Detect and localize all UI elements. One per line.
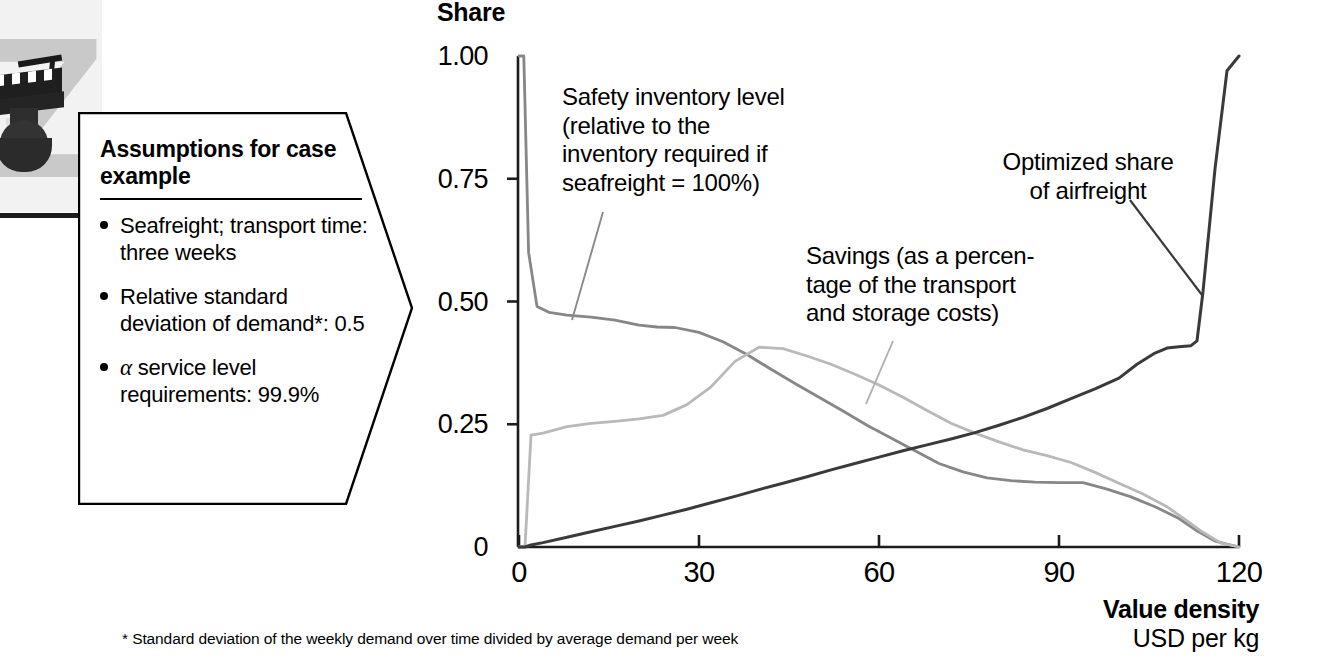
series-savings [519,347,1239,547]
annotation-line: and storage costs) [806,299,1116,328]
annotation-line: Safety inventory level [562,83,862,112]
annotation-line: Savings (as a percen- [806,242,1116,271]
annotation-line: seafreight = 100%) [562,169,862,198]
x-axis-title: Value density USD per kg [1103,595,1259,653]
safety-inventory-annotation: Safety inventory level(relative to thein… [562,83,862,197]
annotation-line: (relative to the [562,112,862,141]
leader-line-savings [866,341,893,404]
airfreight-annotation: Optimized shareof airfreight [968,148,1208,205]
x-axis-ticks [519,535,1239,547]
annotation-line: Optimized share [968,148,1208,177]
leader-line-safety [572,212,603,320]
annotation-line: tage of the transport [806,271,1116,300]
footnote: * Standard deviation of the weekly deman… [122,630,738,648]
annotation-line: inventory required if [562,140,862,169]
leader-line-airfreight [1130,200,1202,295]
annotation-line: of airfreight [968,177,1208,206]
savings-annotation: Savings (as a percen-tage of the transpo… [806,242,1116,328]
x-axis-title-unit: USD per kg [1103,624,1259,653]
chart-figure: Share 00.250.500.751.00 0306090120 Safet… [0,0,1317,658]
x-axis-title-main: Value density [1103,595,1259,624]
